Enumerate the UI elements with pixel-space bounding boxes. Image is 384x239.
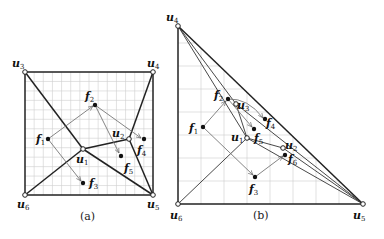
vertex-label-u6: u6 xyxy=(170,209,183,223)
vertex-label-u2: u2 xyxy=(285,139,297,153)
vertex-label-u2: u2 xyxy=(112,127,124,141)
face-label-f3: f3 xyxy=(88,177,98,191)
face-point-f2 xyxy=(226,97,230,101)
vertex-u6 xyxy=(176,202,181,207)
panel-b: u1u2u3u4u5u6f1f2f3f4f5f6 (b) xyxy=(166,11,365,223)
face-point-f4 xyxy=(142,137,146,141)
vertex-label-u4: u4 xyxy=(147,57,160,71)
face-point-f5 xyxy=(119,154,123,158)
vertex-u2 xyxy=(127,137,132,142)
vertex-label-u5: u5 xyxy=(147,198,159,212)
face-point-f3 xyxy=(81,181,85,185)
face-point-f6 xyxy=(283,153,287,157)
face-point-f3 xyxy=(253,175,257,179)
vertex-label-u5: u5 xyxy=(353,209,365,223)
vertex-u1 xyxy=(245,136,250,141)
vertex-u6 xyxy=(23,193,28,198)
vertex-label-u1: u1 xyxy=(231,131,243,145)
figure-canvas: u1u2u3u4u5u6f1f2f3f4f5 (a) u1u2u3u4 xyxy=(0,0,384,239)
vertex-u5 xyxy=(151,193,156,198)
vertex-label-u4: u4 xyxy=(166,11,179,25)
face-label-f1: f1 xyxy=(35,133,45,147)
vertex-label-u1: u1 xyxy=(76,153,88,167)
face-label-f5: f5 xyxy=(253,132,263,146)
face-label-f6: f6 xyxy=(287,153,298,167)
face-point-f1 xyxy=(201,125,205,129)
face-label-f2: f2 xyxy=(213,89,223,103)
face-label-f5: f5 xyxy=(123,162,133,176)
vertex-label-u6: u6 xyxy=(17,198,30,212)
vertex-label-u3: u3 xyxy=(12,57,24,71)
vertex-u5 xyxy=(361,202,366,207)
vertex-label-u3: u3 xyxy=(237,99,249,113)
vertex-u1 xyxy=(81,147,86,152)
face-label-f2: f2 xyxy=(84,90,94,104)
caption-a: (a) xyxy=(80,210,95,223)
face-label-f4: f4 xyxy=(136,144,147,158)
face-point-f5 xyxy=(252,127,256,131)
face-label-f1: f1 xyxy=(188,122,198,136)
face-label-f3: f3 xyxy=(248,183,258,197)
face-point-f1 xyxy=(46,137,50,141)
caption-b: (b) xyxy=(253,209,269,222)
panel-a: u1u2u3u4u5u6f1f2f3f4f5 (a) xyxy=(12,57,160,223)
